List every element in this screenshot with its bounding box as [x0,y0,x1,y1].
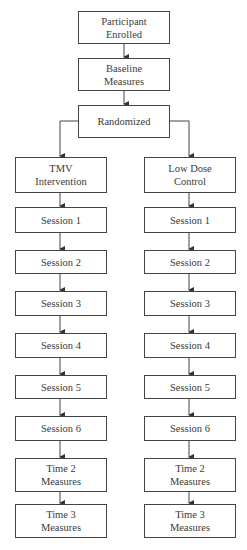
node-label: Session 1 [41,214,81,227]
node-label: Session 5 [41,381,81,394]
node-label-line: Intervention [35,175,86,188]
node-control-session-1: Session 1 [144,207,236,233]
node-label: Session 6 [170,422,210,435]
node-control-session-4: Session 4 [144,333,236,358]
node-label: Session 2 [41,256,81,269]
node-label: Session 2 [170,256,210,269]
node-tmv-session-5: Session 5 [15,375,107,399]
node-baseline-measures: Baseline Measures [78,58,170,91]
node-label-line: Participant [101,15,147,28]
node-low-dose-control: Low Dose Control [144,157,236,193]
node-label-line: Control [168,175,211,188]
node-label-line: Low Dose [168,162,211,175]
node-label-line: Time 2 [41,462,81,475]
node-tmv-intervention: TMV Intervention [15,157,107,193]
node-participant-enrolled: Participant Enrolled [78,11,170,44]
caption-fragment [0,544,247,550]
node-tmv-session-1: Session 1 [15,207,107,233]
node-label-line: Measures [170,475,210,488]
node-label-line: Measures [41,475,81,488]
node-label-line: Randomized [97,115,150,128]
node-control-time-2-measures: Time 2 Measures [144,458,236,492]
node-tmv-session-2: Session 2 [15,250,107,274]
node-label-line: Measures [41,521,81,534]
node-label: Session 6 [41,422,81,435]
node-label-line: Time 3 [41,508,81,521]
node-randomized: Randomized [78,105,170,138]
node-control-session-6: Session 6 [144,416,236,441]
node-label-line: Measures [170,521,210,534]
node-tmv-session-4: Session 4 [15,333,107,358]
node-tmv-session-6: Session 6 [15,416,107,441]
node-label: Session 3 [41,297,81,310]
node-control-session-5: Session 5 [144,375,236,399]
node-control-time-3-measures: Time 3 Measures [144,504,236,538]
node-tmv-time-3-measures: Time 3 Measures [15,504,107,538]
node-control-session-2: Session 2 [144,250,236,274]
node-label: Session 4 [41,339,81,352]
node-label-line: TMV [35,162,86,175]
node-label: Session 3 [170,297,210,310]
node-label: Session 1 [170,214,210,227]
node-label-line: Enrolled [101,28,147,41]
node-label-line: Baseline [104,62,144,75]
node-label-line: Time 3 [170,508,210,521]
node-label: Session 5 [170,381,210,394]
node-label-line: Time 2 [170,462,210,475]
node-control-session-3: Session 3 [144,291,236,316]
node-tmv-time-2-measures: Time 2 Measures [15,458,107,492]
node-label-line: Measures [104,75,144,88]
node-tmv-session-3: Session 3 [15,291,107,316]
node-label: Session 4 [170,339,210,352]
